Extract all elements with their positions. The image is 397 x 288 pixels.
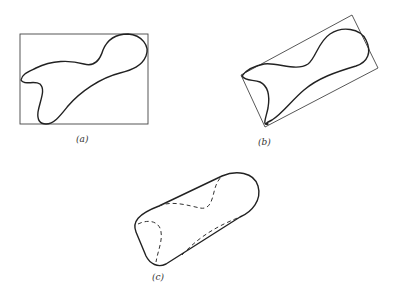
closed-curve-a — [21, 34, 147, 124]
panel-label-b: (b) — [258, 137, 271, 147]
panel-a: (a) — [20, 34, 148, 144]
closed-curve-b — [242, 29, 369, 124]
convex-hull-outline — [135, 173, 259, 266]
panel-b: (b) — [241, 15, 378, 147]
figure-canvas: (a) (b) (c) — [0, 0, 397, 288]
panel-label-a: (a) — [76, 134, 89, 144]
panel-label-c: (c) — [152, 272, 165, 282]
panel-c: (c) — [135, 173, 259, 282]
bounding-box-axis-aligned — [20, 34, 148, 124]
concavity-left-dashed — [138, 221, 161, 262]
